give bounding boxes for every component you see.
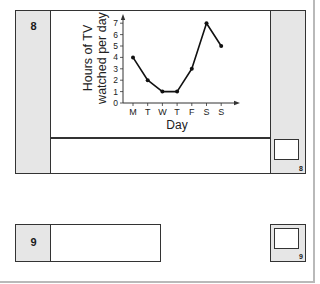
y-ticks: 01234567 — [113, 18, 123, 108]
x-tick-label: M — [129, 107, 137, 117]
data-point — [131, 55, 135, 59]
data-point — [219, 44, 223, 48]
marks-box-9: 9 — [270, 224, 306, 262]
answer-area[interactable] — [51, 225, 160, 261]
x-tick-label: T — [145, 107, 151, 117]
data-point — [205, 21, 209, 25]
y-tick-label: 2 — [113, 75, 118, 85]
x-ticks: MTWTFSS — [129, 103, 224, 117]
y-tick-label: 0 — [113, 98, 118, 108]
y-axis-label-line: Hours of TV — [81, 24, 95, 91]
y-tick-label: 5 — [113, 41, 118, 51]
x-tick-label: F — [189, 107, 195, 117]
question-9-box: 9 — [15, 224, 161, 262]
x-tick-label: S — [218, 107, 224, 117]
x-tick-label: W — [158, 107, 167, 117]
y-axis-label: Hours of TVwatched per day — [81, 11, 109, 104]
chart-axes — [121, 14, 240, 105]
y-tick-label: 4 — [113, 52, 118, 62]
question-number: 9 — [16, 236, 51, 248]
x-tick-label: T — [174, 107, 180, 117]
y-axis-label-line: watched per day — [95, 11, 109, 104]
x-tick-label: S — [203, 107, 209, 117]
data-point — [175, 90, 179, 94]
y-tick-label: 7 — [113, 18, 118, 28]
y-tick-label: 3 — [113, 64, 118, 74]
x-axis-label: Day — [166, 118, 187, 132]
data-point — [146, 78, 150, 82]
question-number-cell: 9 — [16, 225, 51, 261]
y-tick-label: 6 — [113, 30, 118, 40]
data-point — [160, 90, 164, 94]
mark-entry-box[interactable] — [274, 228, 299, 249]
marks-label: 9 — [299, 253, 303, 260]
data-point — [190, 67, 194, 71]
data-points — [131, 21, 223, 93]
y-tick-label: 1 — [113, 87, 118, 97]
